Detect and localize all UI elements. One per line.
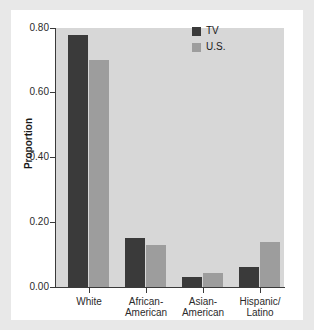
x-tick-label-hispanic-latino: Hispanic/ Latino xyxy=(220,296,300,318)
y-tick-0-60 xyxy=(50,92,55,93)
legend-item-us: U.S. xyxy=(192,40,225,54)
bar-us-white xyxy=(89,60,109,287)
x-tick-label-hispanic-latino-line-1: Hispanic/ xyxy=(220,296,300,307)
x-tick-african-american xyxy=(146,288,147,293)
y-tick-0-00 xyxy=(50,287,55,288)
y-axis-title: Proportion xyxy=(23,104,34,184)
y-tick-0-20 xyxy=(50,222,55,223)
y-tick-label-0-80: 0.80 xyxy=(11,23,49,33)
y-tick-label-0-60: 0.60 xyxy=(11,87,49,97)
legend-item-tv: TV xyxy=(192,24,225,38)
bar-us-asian-american xyxy=(203,273,223,287)
y-tick-label-0-00: 0.00 xyxy=(11,282,49,292)
bar-tv-white xyxy=(68,35,88,287)
bar-tv-hispanic-latino xyxy=(239,267,259,287)
bar-us-african-american xyxy=(146,245,166,287)
bar-tv-african-american xyxy=(125,238,145,287)
figure-frame: 0.80 0.60 0.40 0.20 0.00 Proportion Whit… xyxy=(11,10,303,320)
legend-swatch-tv xyxy=(192,27,201,36)
x-tick-asian-american xyxy=(203,288,204,293)
x-tick-white xyxy=(89,288,90,293)
bar-us-hispanic-latino xyxy=(260,242,280,287)
bar-tv-asian-american xyxy=(182,277,202,287)
bars-layer xyxy=(56,28,284,287)
legend: TV U.S. xyxy=(192,24,225,56)
legend-label-us: U.S. xyxy=(206,42,225,52)
legend-swatch-us xyxy=(192,43,201,52)
y-tick-0-40 xyxy=(50,157,55,158)
x-tick-label-hispanic-latino-line-2: Latino xyxy=(220,307,300,318)
y-tick-label-0-20: 0.20 xyxy=(11,217,49,227)
y-tick-0-80 xyxy=(50,28,55,29)
legend-label-tv: TV xyxy=(206,26,219,36)
x-tick-hispanic-latino xyxy=(260,288,261,293)
